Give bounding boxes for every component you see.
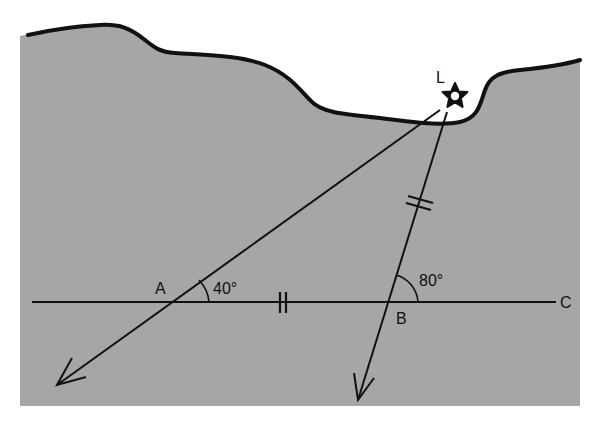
point-label-B: B (396, 310, 407, 327)
angle-label-B: 80° (419, 272, 443, 289)
land-region (20, 25, 580, 406)
point-label-L: L (436, 69, 445, 86)
point-label-A: A (155, 280, 166, 297)
angle-label-A: 40° (213, 280, 237, 297)
point-label-C: C (560, 294, 572, 311)
triangulation-diagram: L A B C 40° 80° (0, 0, 597, 427)
star-icon (443, 83, 468, 107)
